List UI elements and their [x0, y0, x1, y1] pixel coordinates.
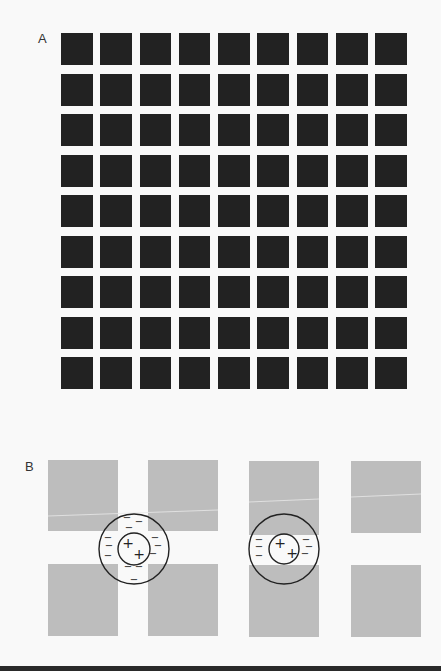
minus-sign-icon: − [135, 516, 143, 527]
minus-sign-icon: − [130, 574, 138, 585]
gray-square [48, 460, 118, 531]
plus-sign-icon: + [122, 535, 134, 551]
minus-sign-icon: − [124, 561, 132, 572]
gray-square [48, 564, 118, 636]
gray-square [351, 565, 421, 637]
minus-sign-icon: − [135, 561, 143, 572]
gray-square [148, 460, 218, 531]
minus-sign-icon: − [125, 522, 133, 533]
plus-sign-icon: + [274, 535, 286, 551]
bottom-border-bar [0, 666, 441, 671]
plus-sign-icon: + [286, 545, 298, 561]
minus-sign-icon: − [255, 550, 263, 561]
minus-sign-icon: − [149, 548, 157, 559]
gray-square [351, 461, 421, 533]
gray-square [249, 565, 319, 637]
minus-sign-icon: − [301, 548, 309, 559]
minus-sign-icon: − [104, 550, 112, 561]
receptive-field-diagram: ++−−−−−−−−−−−−++−−−−−− [0, 0, 441, 671]
